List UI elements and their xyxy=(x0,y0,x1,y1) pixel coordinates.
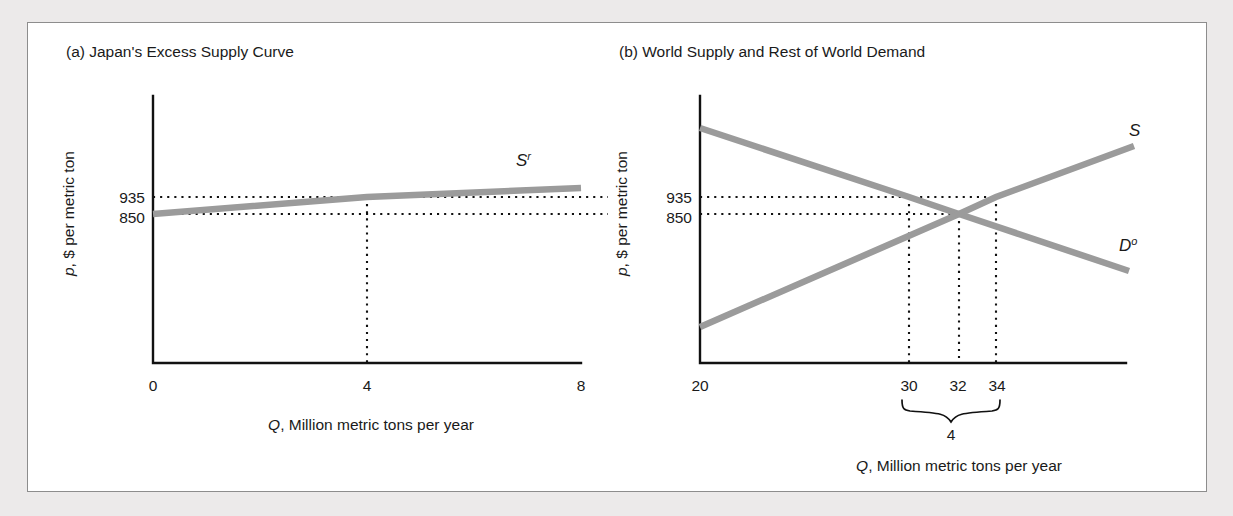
panel-b-ytick-850: 850 xyxy=(666,209,692,226)
panel-a-y-axis-label-rest: , $ per metric ton xyxy=(60,151,77,267)
panel-b-supply-label: S xyxy=(1129,121,1141,140)
figure-frame: (a) Japan's Excess Supply Curve p, $ per… xyxy=(27,22,1207,492)
panel-a-xtick-4: 4 xyxy=(363,377,372,394)
panel-b-xtick-30: 30 xyxy=(900,377,918,394)
panel-b-y-axis-label-rest: , $ per metric ton xyxy=(613,151,630,267)
panel-a-y-axis-label-var: p xyxy=(60,267,77,277)
panel-a-curve-label: Sr xyxy=(516,150,532,170)
panel-a-xtick-8: 8 xyxy=(577,377,586,394)
panel-b-xtick-32: 32 xyxy=(949,377,966,394)
panel-a-title: (a) Japan's Excess Supply Curve xyxy=(66,43,294,60)
panel-a-ytick-935: 935 xyxy=(119,189,145,206)
panel-b-x-axis-label-var: Q xyxy=(856,457,868,474)
panel-b-brace xyxy=(902,400,1000,422)
panel-b-brace-label: 4 xyxy=(947,426,956,443)
panel-a-y-axis-label: p, $ per metric ton xyxy=(60,151,77,277)
panel-b-y-axis-label-var: p xyxy=(613,267,630,277)
panel-a-ytick-850: 850 xyxy=(119,209,145,226)
panel-a-axes xyxy=(153,96,581,363)
panel-b-xtick-34: 34 xyxy=(988,377,1006,394)
panel-b-x-axis-label: Q, Million metric tons per year xyxy=(856,457,1062,474)
panel-a-chart: (a) Japan's Excess Supply Curve p, $ per… xyxy=(28,23,628,483)
panel-a-x-axis-label: Q, Million metric tons per year xyxy=(268,416,474,433)
panel-b-axes xyxy=(700,96,1126,363)
panel-b-demand-label-main: D xyxy=(1119,236,1131,255)
panel-a-curve-label-main: S xyxy=(516,151,528,170)
panel-b-chart: (b) World Supply and Rest of World Deman… xyxy=(601,23,1211,493)
panel-b-title: (b) World Supply and Rest of World Deman… xyxy=(619,43,925,60)
panel-b-xtick-20: 20 xyxy=(691,377,709,394)
panel-b-y-axis-label: p, $ per metric ton xyxy=(613,151,630,277)
svg-text:p, $ per metric ton: p, $ per metric ton xyxy=(613,151,630,277)
panel-a-supply-curve xyxy=(153,188,581,214)
panel-a-x-axis-label-var: Q xyxy=(268,416,280,433)
panel-b-ytick-935: 935 xyxy=(666,189,692,206)
panel-b-demand-label: Do xyxy=(1119,235,1137,255)
svg-text:p, $ per metric ton: p, $ per metric ton xyxy=(60,151,77,277)
panel-b-demand-curve xyxy=(700,128,1129,271)
panel-b-x-axis-label-rest: , Million metric tons per year xyxy=(868,457,1062,474)
panel-a-xtick-0: 0 xyxy=(149,377,158,394)
panel-b-demand-label-sup: o xyxy=(1131,235,1137,247)
panel-a-curve-label-sup: r xyxy=(527,150,532,162)
panel-b-supply-curve xyxy=(700,146,1134,327)
panel-a-x-axis-label-rest: , Million metric tons per year xyxy=(280,416,474,433)
